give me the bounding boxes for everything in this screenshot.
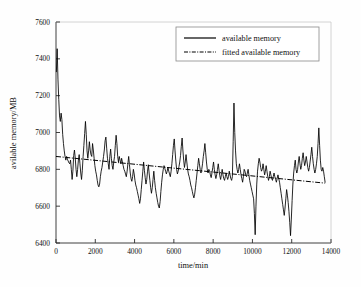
x-tick-label: 12000 [282, 247, 301, 256]
y-tick-label: 7000 [35, 128, 50, 137]
x-tick-label: 2000 [88, 247, 103, 256]
x-tick-label: 14000 [322, 247, 341, 256]
y-tick-label: 7600 [35, 18, 50, 27]
x-tick-label: 10000 [243, 247, 262, 256]
y-tick-label: 7200 [35, 91, 50, 100]
chart-figure: 6400660068007000720074007600 02000400060… [0, 0, 361, 287]
x-tick-label: 6000 [166, 247, 181, 256]
y-axis-title: avilable memory/MB [9, 97, 18, 169]
y-tick-label: 7400 [35, 54, 50, 63]
chart-svg: 6400660068007000720074007600 02000400060… [0, 0, 361, 287]
legend-label-fitted-available-memory: fitted available memory [222, 48, 301, 57]
series-available-memory [56, 49, 325, 236]
x-tick-label: 8000 [206, 247, 221, 256]
x-axis-title: time/min [178, 261, 209, 270]
series-fitted-available-memory [56, 156, 325, 183]
x-axis-ticks: 02000400060008000100001200014000 [54, 239, 340, 256]
y-tick-label: 6800 [35, 165, 50, 174]
x-tick-label: 4000 [127, 247, 142, 256]
y-tick-label: 6600 [35, 202, 50, 211]
x-tick-label: 0 [54, 247, 58, 256]
legend-label-available-memory: available memory [222, 34, 282, 43]
legend: available memory fitted available memory [176, 27, 319, 61]
y-tick-label: 6400 [35, 239, 50, 248]
